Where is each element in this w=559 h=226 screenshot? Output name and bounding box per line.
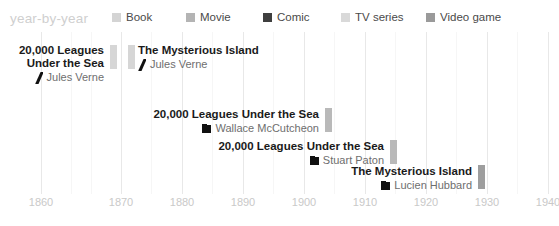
event-author-row: Jules Verne xyxy=(138,58,259,71)
timeline-event[interactable]: The Mysterious IslandLucien Hubbard xyxy=(0,165,478,192)
event-marker-bar[interactable] xyxy=(390,140,397,164)
event-marker-bar[interactable] xyxy=(128,45,135,69)
event-title: The Mysterious Island xyxy=(351,165,472,178)
event-marker-bar[interactable] xyxy=(110,45,117,69)
event-title-line1: 20,000 Leagues xyxy=(19,44,104,56)
event-text-block: 20,000 Leagues Under the SeaStuart Paton xyxy=(218,140,390,167)
timeline-event[interactable]: The Mysterious IslandJules Verne xyxy=(138,44,265,71)
event-title-line2: Under the Sea xyxy=(19,57,104,70)
legend-swatch-icon xyxy=(341,13,350,22)
event-title-line1: The Mysterious Island xyxy=(351,165,472,177)
legend-swatch-icon xyxy=(112,13,121,22)
event-title-line1: The Mysterious Island xyxy=(138,44,259,56)
event-title: The Mysterious Island xyxy=(138,44,259,57)
x-axis-tick-label: 1880 xyxy=(170,196,194,208)
square-icon xyxy=(310,156,319,165)
event-author-row: Lucien Hubbard xyxy=(351,179,472,192)
slash-icon xyxy=(138,59,146,71)
event-title: 20,000 Leagues Under the Sea xyxy=(218,140,384,153)
legend-item-book[interactable]: Book xyxy=(112,12,152,24)
x-axis: 186018701880189019001910192019301940 xyxy=(0,194,559,226)
event-text-block: 20,000 Leagues Under the SeaWallace McCu… xyxy=(153,108,325,135)
legend-item-comic[interactable]: Comic xyxy=(263,12,310,24)
x-axis-tick-label: 1890 xyxy=(231,196,255,208)
legend-item-video-game[interactable]: Video game xyxy=(426,12,501,24)
event-author: Jules Verne xyxy=(150,58,207,71)
event-author: Lucien Hubbard xyxy=(394,179,472,192)
x-axis-tick-label: 1860 xyxy=(29,196,53,208)
timeline-event[interactable]: 20,000 Leagues Under the SeaWallace McCu… xyxy=(0,108,325,135)
event-text-block: 20,000 LeaguesUnder the SeaJules Verne xyxy=(19,44,110,84)
legend-item-tv-series[interactable]: TV series xyxy=(341,12,404,24)
x-axis-tick-label: 1920 xyxy=(414,196,438,208)
event-author: Jules Verne xyxy=(47,71,104,84)
x-axis-tick-label: 1870 xyxy=(109,196,133,208)
legend-swatch-icon xyxy=(426,13,435,22)
legend-swatch-icon xyxy=(263,13,272,22)
event-title-line1: 20,000 Leagues Under the Sea xyxy=(218,140,384,152)
gridline-major xyxy=(487,32,488,194)
x-axis-tick-label: 1940 xyxy=(536,196,559,208)
event-text-block: The Mysterious IslandLucien Hubbard xyxy=(351,165,478,192)
gridline-minor xyxy=(517,32,518,194)
event-marker-bar[interactable] xyxy=(478,165,485,189)
legend-item-label: Book xyxy=(126,12,152,24)
timeline-event[interactable]: 20,000 LeaguesUnder the SeaJules Verne xyxy=(0,44,110,84)
event-title: 20,000 Leagues Under the Sea xyxy=(153,108,319,121)
plot-area: 20,000 LeaguesUnder the SeaJules VerneTh… xyxy=(0,32,559,194)
event-author-row: Wallace McCutcheon xyxy=(153,122,319,135)
legend-item-label: Comic xyxy=(277,12,310,24)
x-axis-tick-label: 1900 xyxy=(292,196,316,208)
event-title-line1: 20,000 Leagues Under the Sea xyxy=(153,108,319,120)
legend-item-label: Video game xyxy=(440,12,501,24)
chart-title: year-by-year xyxy=(10,11,88,26)
gridline-major xyxy=(548,32,549,194)
legend-item-movie[interactable]: Movie xyxy=(186,12,231,24)
slash-icon xyxy=(35,72,43,84)
legend-swatch-icon xyxy=(186,13,195,22)
event-author: Wallace McCutcheon xyxy=(215,122,319,135)
timeline-event[interactable]: 20,000 Leagues Under the SeaStuart Paton xyxy=(0,140,390,167)
chart-header: year-by-year BookMovieComicTV seriesVide… xyxy=(0,0,559,32)
legend-item-label: TV series xyxy=(355,12,404,24)
square-icon xyxy=(381,181,390,190)
square-icon xyxy=(202,124,211,133)
x-axis-tick-label: 1910 xyxy=(353,196,377,208)
event-title: 20,000 LeaguesUnder the Sea xyxy=(19,44,104,70)
x-axis-tick-label: 1930 xyxy=(475,196,499,208)
event-text-block: The Mysterious IslandJules Verne xyxy=(138,44,265,71)
year-by-year-timeline-chart: year-by-year BookMovieComicTV seriesVide… xyxy=(0,0,559,226)
event-author-row: Jules Verne xyxy=(19,71,104,84)
event-marker-bar[interactable] xyxy=(325,108,332,132)
legend-item-label: Movie xyxy=(200,12,231,24)
